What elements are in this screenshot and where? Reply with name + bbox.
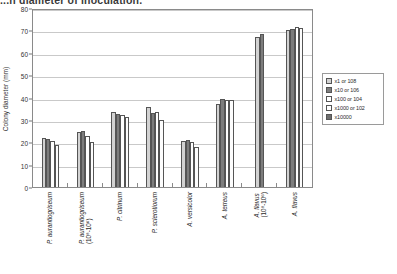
bar-group <box>207 10 242 187</box>
x-axis-label-sub: (10⁸-10⁶) <box>260 192 267 218</box>
bar <box>125 117 129 188</box>
y-axis-tick-label: 70 <box>21 28 28 35</box>
y-axis-tick-mark <box>29 98 32 99</box>
x-axis-label-cell: P. citrinum <box>102 190 137 274</box>
legend-item: x100 or 104 <box>326 95 380 103</box>
x-axis-label-cell: A. flavus <box>278 190 313 274</box>
y-axis-tick-mark <box>29 165 32 166</box>
x-axis-labels: P. aurantiogriseumP. aurantiogriseum(10⁸… <box>32 190 313 274</box>
y-axis-tick-label: 40 <box>21 95 28 102</box>
x-axis-label: A. flavus <box>292 192 299 216</box>
y-axis-tick-mark <box>29 53 32 54</box>
y-axis-tick-label: 30 <box>21 117 28 124</box>
y-axis-tick-label: 20 <box>21 140 28 147</box>
legend-label: x100 or 104 <box>335 96 362 102</box>
legend-item: x10000 <box>326 113 380 121</box>
x-axis-label-sub: (10⁸-10⁶) <box>85 192 92 244</box>
figure-caption: ...n diameter of inoculation. <box>0 0 397 5</box>
y-axis-tick-label: 60 <box>21 50 28 57</box>
x-axis-label-cell: A. terreus <box>208 190 243 274</box>
bar-group <box>242 10 277 187</box>
bar <box>229 100 233 187</box>
y-axis-tick-mark <box>29 31 32 32</box>
x-axis-label-cell: P. aurantiogriseum(10⁸-10⁶) <box>67 190 102 274</box>
legend-label: x1000 or 102 <box>335 105 365 111</box>
bar <box>55 145 59 188</box>
y-axis-tick-mark <box>29 76 32 77</box>
y-axis-tick-label: 10 <box>21 162 28 169</box>
bar <box>159 120 163 187</box>
legend-item: x1 or 108 <box>326 77 380 85</box>
legend-item: x1000 or 102 <box>326 104 380 112</box>
y-axis-tick-mark <box>29 188 32 189</box>
bar-group <box>277 10 312 187</box>
legend-label: x10 or 106 <box>335 87 359 93</box>
x-axis-label: P. aurantiogriseum(10⁸-10⁶) <box>77 192 92 244</box>
y-axis-tick-label: 80 <box>21 6 28 13</box>
x-axis-label-cell: A. flavus(10⁸-10⁶) <box>243 190 278 274</box>
bar <box>260 34 264 187</box>
y-axis-label: Colony diameter (mm) <box>2 66 9 130</box>
plot-area <box>32 9 313 188</box>
y-axis-tick-mark <box>29 143 32 144</box>
legend-swatch <box>326 87 332 93</box>
y-axis-tick-mark <box>29 9 32 10</box>
x-axis-label-cell: P. sclerotiorum <box>137 190 172 274</box>
legend-swatch <box>326 96 332 102</box>
bar-group <box>138 10 173 187</box>
x-axis-label: A. flavus(10⁸-10⁶) <box>253 192 268 218</box>
x-axis-label: P. aurantiogriseum <box>46 192 53 244</box>
x-axis-label: A. versicolor <box>186 192 193 227</box>
chart-legend: x1 or 108x10 or 106x100 or 104x1000 or 1… <box>322 73 384 125</box>
bar-chart: 01020304050607080 Colony diameter (mm) <box>32 9 313 188</box>
bar-group <box>33 10 68 187</box>
bar-groups <box>33 10 312 187</box>
legend-swatch <box>326 78 332 84</box>
x-axis-label-cell: P. aurantiogriseum <box>32 190 67 274</box>
bar-group <box>103 10 138 187</box>
legend-swatch <box>326 114 332 120</box>
x-axis-label: A. terreus <box>221 192 228 219</box>
bar <box>194 147 198 187</box>
y-axis-tick-label: 50 <box>21 73 28 80</box>
y-axis-tick-mark <box>29 120 32 121</box>
legend-label: x1 or 108 <box>335 78 357 84</box>
bar-group <box>68 10 103 187</box>
y-axis-tick-label: 0 <box>24 185 28 192</box>
bar <box>299 28 303 187</box>
x-axis-label: P. sclerotiorum <box>151 192 158 233</box>
bar <box>90 142 94 187</box>
x-axis-label-cell: A. versicolor <box>173 190 208 274</box>
x-axis-label: P. citrinum <box>116 192 123 221</box>
legend-label: x10000 <box>335 114 352 120</box>
legend-item: x10 or 106 <box>326 86 380 94</box>
legend-swatch <box>326 105 332 111</box>
bar-group <box>173 10 208 187</box>
